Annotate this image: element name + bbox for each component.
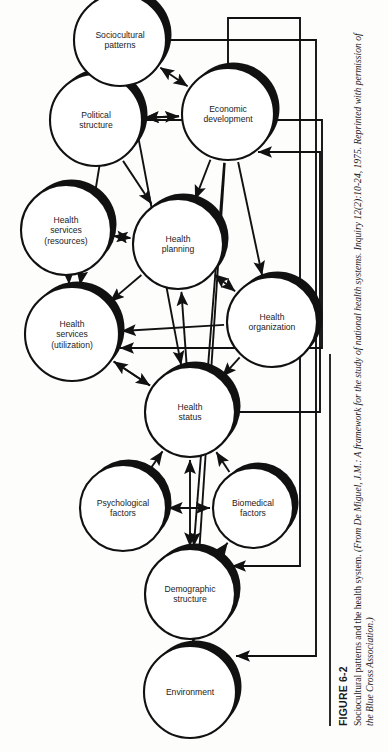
node-layer: EnvironmentDemographicstructurePsycholog… xyxy=(21,0,323,738)
edge-health-planning-to-hs-resources xyxy=(114,236,131,238)
caption-divider xyxy=(329,354,331,726)
edge-economic-to-political xyxy=(145,116,179,118)
node-sociocultural[interactable]: Socioculturalpatterns xyxy=(74,0,172,86)
node-environment[interactable]: Environment xyxy=(144,641,242,739)
node-economic[interactable]: Economicdevelopment xyxy=(182,63,280,161)
node-health-org[interactable]: Healthorganization xyxy=(227,272,323,368)
node-biomedical[interactable]: Biomedicalfactors xyxy=(213,463,299,549)
node-health-status[interactable]: Healthstatus xyxy=(145,362,241,458)
edge-economic-to-health-planning xyxy=(195,160,210,199)
edge-sociocultural-to-economic xyxy=(160,68,187,87)
edge-health-planning-to-hs-utilization xyxy=(110,275,141,302)
node-demographic[interactable]: Demographicstructure xyxy=(145,544,241,640)
figure-number: FIGURE 6-2 xyxy=(337,666,349,726)
caption-main-text: Sociocultural patterns and the health sy… xyxy=(352,554,363,726)
diagram-container: EnvironmentDemographicstructurePsycholog… xyxy=(0,0,330,752)
edge-biomedical-to-health-status xyxy=(216,452,229,472)
caption-rotated: FIGURE 6-2 Sociocultural patterns and th… xyxy=(329,26,387,726)
edge-hs-utilization-to-health-status xyxy=(114,362,150,386)
node-label: Economicdevelopment xyxy=(203,104,253,125)
diagram-rotated-canvas: EnvironmentDemographicstructurePsycholog… xyxy=(0,0,330,752)
node-health-planning[interactable]: Healthplanning xyxy=(133,194,229,290)
node-hs-utilization[interactable]: Healthservices(utilization) xyxy=(25,282,125,382)
node-hs-resources[interactable]: Healthservices(resources) xyxy=(21,180,117,276)
figure-page: EnvironmentDemographicstructurePsycholog… xyxy=(0,0,388,752)
system-diagram: EnvironmentDemographicstructurePsycholog… xyxy=(0,0,330,752)
figure-caption: Sociocultural patterns and the health sy… xyxy=(352,26,375,726)
node-label: Healthstatus xyxy=(178,402,203,423)
caption-container: FIGURE 6-2 Sociocultural patterns and th… xyxy=(328,0,388,752)
node-label: Politicalstructure xyxy=(79,110,113,131)
node-label: Healthplanning xyxy=(162,234,195,255)
edge-economic-to-health-org xyxy=(238,162,262,275)
node-label: Environment xyxy=(166,687,215,697)
node-psychological[interactable]: Psychologicalfactors xyxy=(80,460,172,552)
